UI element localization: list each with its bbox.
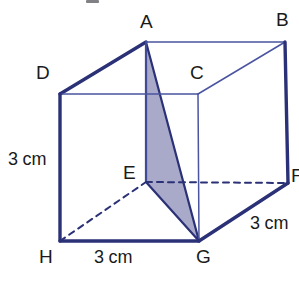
- cube-edge-BC: [198, 42, 285, 94]
- dimension-label-width: 3 cm: [94, 248, 132, 266]
- vertex-label-F: F: [291, 166, 299, 185]
- cube-diagram: ABCDEFGH 3 cm3 cm3 cm: [0, 0, 299, 281]
- vertex-label-E: E: [123, 163, 136, 182]
- vertex-label-H: H: [39, 247, 53, 266]
- dimension-label-depth: 3 cm: [250, 214, 288, 232]
- cube-edge-HE: [60, 182, 146, 241]
- vertex-label-C: C: [190, 63, 204, 82]
- cube-svg: [0, 0, 299, 281]
- dimension-label-height: 3 cm: [8, 150, 46, 168]
- vertex-label-G: G: [196, 247, 211, 266]
- cube-edge-DA: [60, 42, 146, 94]
- cube-edge-CG: [198, 94, 199, 241]
- vertex-label-D: D: [36, 63, 50, 82]
- cube-edge-EF: [146, 182, 288, 183]
- vertex-label-B: B: [276, 10, 289, 29]
- cube-edge-BF: [285, 42, 288, 183]
- cropped-text-artifact: [86, 0, 99, 3]
- vertex-label-A: A: [140, 12, 153, 31]
